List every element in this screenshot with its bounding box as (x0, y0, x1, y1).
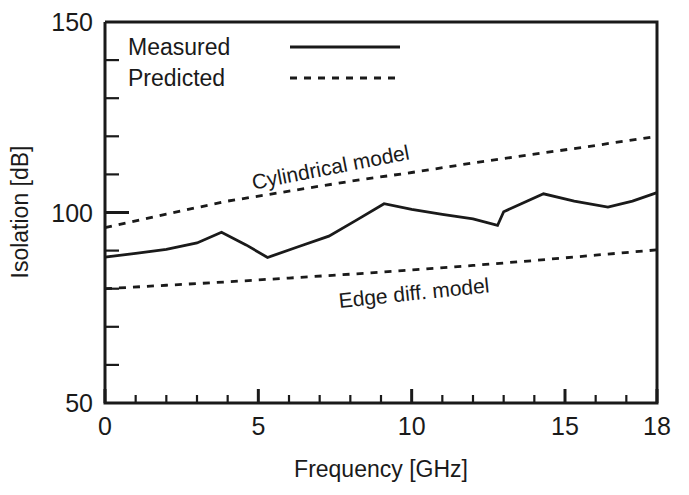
x-axis-title: Frequency [GHz] (294, 456, 468, 482)
y-axis-tick-labels: 50100150 (51, 8, 93, 417)
y-tick-label: 50 (65, 389, 93, 417)
chart-figure: 05101518 50100150 Cylindrical modelEdge … (0, 0, 689, 495)
y-axis-title: Isolation [dB] (7, 146, 33, 279)
x-tick-label: 5 (251, 412, 265, 440)
x-axis-tick-labels: 05101518 (98, 412, 671, 440)
svg-text:Isolation [dB]: Isolation [dB] (7, 146, 33, 279)
y-tick-label: 100 (51, 199, 93, 227)
isolation-vs-frequency-chart: 05101518 50100150 Cylindrical modelEdge … (0, 0, 689, 495)
x-tick-label: 18 (643, 412, 671, 440)
series-edge-diff-model (105, 250, 657, 289)
x-tick-label: 15 (551, 412, 579, 440)
svg-text:Frequency [GHz]: Frequency [GHz] (294, 456, 468, 482)
x-tick-label: 10 (398, 412, 426, 440)
legend-label-measured: Measured (128, 34, 230, 60)
series-measured (105, 193, 657, 258)
annotation-label: Edge diff. model (337, 273, 490, 312)
y-tick-label: 150 (51, 8, 93, 36)
chart-legend: MeasuredPredicted (128, 34, 400, 91)
x-tick-label: 0 (98, 412, 112, 440)
legend-label-predicted: Predicted (128, 65, 225, 91)
